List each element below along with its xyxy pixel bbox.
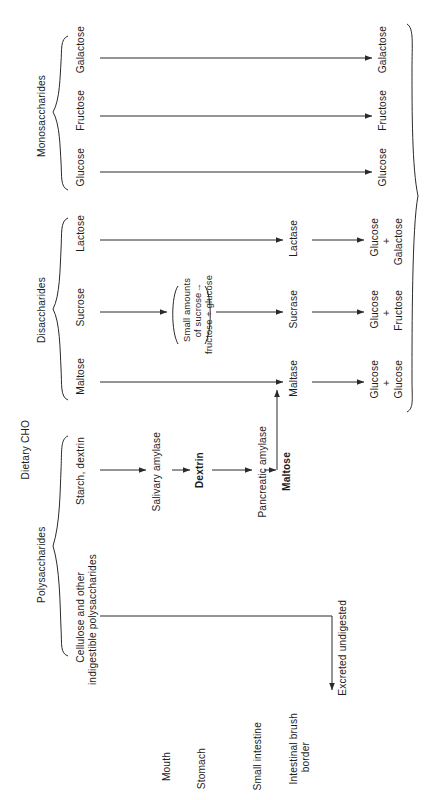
- paren-left: [173, 286, 178, 344]
- organ-label-mouth: Mouth: [161, 752, 173, 781]
- diagram-vectors: [0, 0, 425, 800]
- label-galactose-in: Galactose: [75, 26, 87, 73]
- label-lactase: Lactase: [288, 220, 300, 257]
- label-cellulose-line1: Cellulose and other: [75, 572, 87, 663]
- label-sucrase: Sucrase: [288, 290, 300, 328]
- label-maltose-product: Maltose: [281, 452, 293, 491]
- brace-polysaccharides: [53, 436, 68, 656]
- organ-label-brush-border-l1: Intestinal brush: [288, 713, 300, 785]
- brace-disaccharides: [53, 218, 68, 400]
- maltase-product-plus: +: [381, 380, 393, 386]
- lactase-product-glucose: Glucose: [369, 218, 381, 256]
- sucrose-note-line3: fructose + glucose: [203, 275, 215, 354]
- label-salivary-amylase: Salivary amylase: [151, 432, 163, 511]
- sucrase-product-fructose: Fructose: [393, 290, 405, 331]
- label-fructose-in: Fructose: [75, 90, 87, 131]
- label-maltose: Maltose: [75, 358, 87, 395]
- group-label-monosaccharides: Monosaccharides: [36, 36, 48, 196]
- page-title: Dietary CHO: [20, 420, 32, 479]
- organ-label-brush-border-l2: border: [300, 742, 312, 772]
- label-cellulose-line2: indigestible polysaccharides: [87, 554, 99, 685]
- maltase-product-glucose-1: Glucose: [369, 360, 381, 398]
- maltase-product-glucose-2: Glucose: [393, 360, 405, 398]
- label-excreted-undigested: Excreted undigested: [337, 600, 349, 696]
- label-galactose-out: Galactose: [377, 26, 389, 73]
- brace-outputs: [407, 24, 418, 412]
- label-pancreatic-amylase: Pancreatic amylase: [257, 426, 269, 518]
- lactase-product-plus: +: [381, 238, 393, 244]
- brace-monosaccharides: [53, 36, 68, 190]
- organ-label-stomach: Stomach: [196, 748, 208, 789]
- label-dextrin: Dextrin: [194, 452, 206, 488]
- label-fructose-out: Fructose: [377, 90, 389, 131]
- group-label-disaccharides: Disaccharides: [36, 220, 48, 400]
- label-starch-dextrin: Starch, dextrin: [75, 437, 87, 505]
- sucrase-product-plus: +: [381, 310, 393, 316]
- label-glucose-in: Glucose: [75, 148, 87, 186]
- label-maltase: Maltase: [288, 360, 300, 397]
- organ-label-small-intestine: Small intestine: [252, 722, 264, 791]
- label-sucrose: Sucrose: [75, 288, 87, 326]
- label-lactose: Lactose: [75, 215, 87, 252]
- sucrose-note-line1: Small amounts: [181, 278, 193, 342]
- diagram-page: Dietary CHO Monosaccharides Disaccharide…: [0, 0, 425, 800]
- sucrose-note-line2: of sucrose→: [192, 283, 204, 337]
- arrow-cellulose-to-excreted: [100, 616, 332, 690]
- label-glucose-out: Glucose: [377, 148, 389, 186]
- sucrase-product-glucose: Glucose: [369, 290, 381, 328]
- lactase-product-galactose: Galactose: [393, 218, 405, 265]
- group-label-polysaccharides: Polysaccharides: [36, 500, 48, 630]
